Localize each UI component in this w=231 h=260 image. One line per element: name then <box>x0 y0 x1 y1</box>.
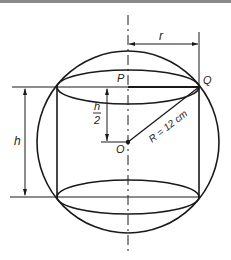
label-Q: Q <box>203 74 212 86</box>
h-arrow-up <box>23 88 27 95</box>
label-h: h <box>14 134 21 148</box>
label-P: P <box>117 72 125 84</box>
h-half-arrow-down <box>105 134 109 141</box>
center-point-O <box>126 140 130 144</box>
cylinder-in-sphere-diagram: r P Q O h h 2 R = 12 cm <box>0 0 231 260</box>
h-half-arrow-up <box>105 88 109 95</box>
label-h-half-numerator: h <box>94 100 100 112</box>
label-O: O <box>116 143 125 155</box>
h-arrow-down <box>23 189 27 196</box>
label-h-half-denominator: 2 <box>93 114 100 126</box>
label-R: R = 12 cm <box>146 108 189 145</box>
label-r: r <box>159 29 164 43</box>
r-arrow-left <box>129 42 135 46</box>
r-arrow-right <box>192 42 198 46</box>
